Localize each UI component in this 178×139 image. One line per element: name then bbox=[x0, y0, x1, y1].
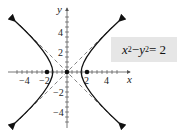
y-tick-label: −2 bbox=[53, 87, 64, 98]
x-tick-label: −4 bbox=[19, 75, 30, 86]
y-tick-label: 2 bbox=[58, 47, 63, 58]
hyperbola-graph: −4 −2 2 4 4 2 −2 −4 x y bbox=[0, 0, 178, 139]
y-tick-label: −4 bbox=[53, 107, 64, 118]
y-tick-label: 4 bbox=[58, 27, 63, 38]
x-tick-label: 4 bbox=[104, 75, 109, 86]
equation-label: x2 − y2 = 2 bbox=[111, 37, 177, 62]
center-point bbox=[65, 70, 70, 75]
x-tick-label: −2 bbox=[39, 75, 50, 86]
eq-equals: = 2 bbox=[149, 42, 166, 58]
y-axis-label: y bbox=[56, 3, 62, 15]
hyperbola-left-branch bbox=[15, 21, 53, 72]
x-tick-label: 2 bbox=[84, 75, 89, 86]
focus-point-left bbox=[45, 70, 50, 75]
x-axis-label: x bbox=[126, 73, 132, 85]
focus-point-right bbox=[85, 70, 90, 75]
